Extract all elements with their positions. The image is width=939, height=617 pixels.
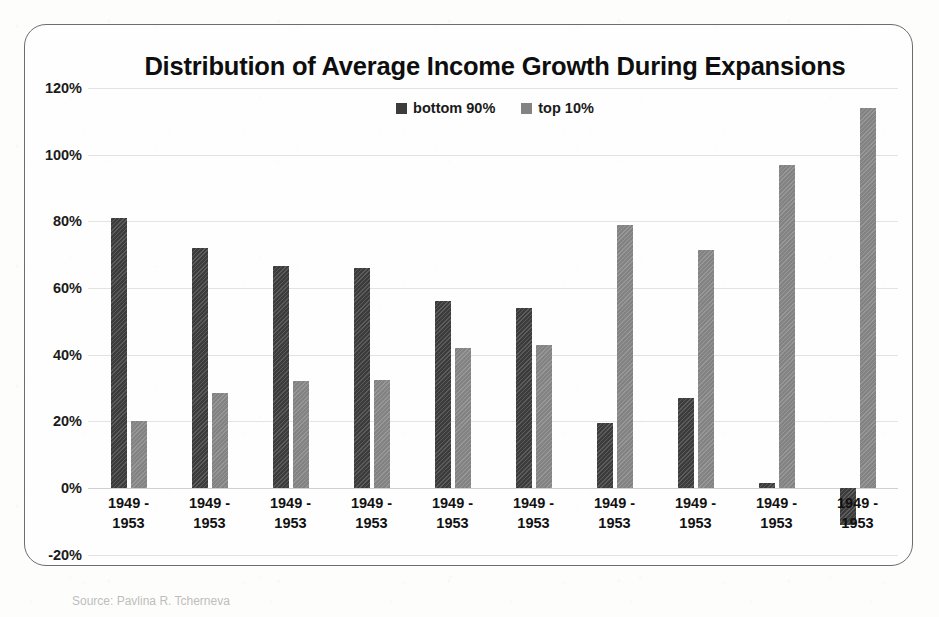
bar-group: [574, 88, 655, 488]
chart-title: Distribution of Average Income Growth Du…: [100, 52, 890, 81]
bar-bottom-90[interactable]: [759, 483, 775, 488]
plot-area: [88, 88, 898, 488]
y-axis-tick-label: 0%: [24, 480, 82, 496]
bar-top-10[interactable]: [779, 165, 795, 488]
x-axis-tick-label: 1949 - 1953: [493, 494, 574, 533]
bar-top-10[interactable]: [455, 348, 471, 488]
x-axis-tick-label: 1949 - 1953: [655, 494, 736, 533]
bar-bottom-90[interactable]: [597, 423, 613, 488]
bar-group: [169, 88, 250, 488]
bar-group: [736, 88, 817, 488]
bar-group: [331, 88, 412, 488]
bar-top-10[interactable]: [698, 250, 714, 488]
bar-top-10[interactable]: [536, 345, 552, 488]
gridline-neg20: [88, 555, 898, 556]
y-axis-tick-label: 40%: [24, 347, 82, 363]
y-axis-tick-label: 100%: [24, 147, 82, 163]
bar-bottom-90[interactable]: [354, 268, 370, 488]
bar-bottom-90[interactable]: [111, 218, 127, 488]
bar-bottom-90[interactable]: [435, 301, 451, 488]
x-axis-tick-label: 1949 - 1953: [331, 494, 412, 533]
bar-top-10[interactable]: [131, 421, 147, 488]
x-axis-tick-label: 1949 - 1953: [169, 494, 250, 533]
bar-bottom-90[interactable]: [678, 398, 694, 488]
x-axis-tick-label: 1949 - 1953: [88, 494, 169, 533]
bar-top-10[interactable]: [617, 225, 633, 488]
y-axis-tick-label: 20%: [24, 413, 82, 429]
bar-group: [493, 88, 574, 488]
x-axis-tick-label: 1949 - 1953: [412, 494, 493, 533]
y-axis-tick-label: -20%: [24, 547, 82, 563]
bar-group: [88, 88, 169, 488]
bar-group: [412, 88, 493, 488]
bar-chart: Distribution of Average Income Growth Du…: [0, 0, 939, 617]
bar-bottom-90[interactable]: [192, 248, 208, 488]
bar-series-container: [88, 88, 898, 488]
bar-top-10[interactable]: [293, 381, 309, 488]
bar-top-10[interactable]: [374, 380, 390, 488]
bar-group: [250, 88, 331, 488]
y-axis-tick-label: 60%: [24, 280, 82, 296]
y-axis-tick-label: 120%: [24, 80, 82, 96]
y-axis-tick-label: 80%: [24, 213, 82, 229]
bar-top-10[interactable]: [212, 393, 228, 488]
y-axis: 120%100%80%60%40%20%0%-20%: [24, 88, 82, 545]
bar-group: [817, 88, 898, 488]
bar-bottom-90[interactable]: [273, 266, 289, 488]
bar-group: [655, 88, 736, 488]
x-axis: 1949 - 19531949 - 19531949 - 19531949 - …: [88, 494, 898, 544]
x-axis-tick-label: 1949 - 1953: [736, 494, 817, 533]
x-axis-tick-label: 1949 - 1953: [817, 494, 898, 533]
gridline-0: [88, 488, 898, 489]
x-axis-tick-label: 1949 - 1953: [574, 494, 655, 533]
bar-top-10[interactable]: [860, 108, 876, 488]
x-axis-tick-label: 1949 - 1953: [250, 494, 331, 533]
bar-bottom-90[interactable]: [516, 308, 532, 488]
figure-caption: Source: Pavlina R. Tcherneva: [72, 594, 230, 608]
